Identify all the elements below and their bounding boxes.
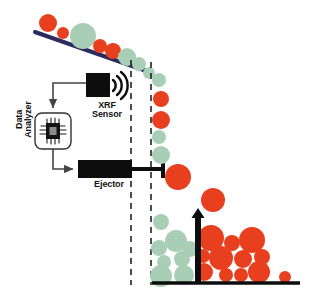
signal-waves-icon (113, 72, 128, 99)
ore-particle-reject (153, 91, 169, 107)
ore-particle-reject (201, 188, 225, 212)
pile-accept (150, 230, 198, 287)
diagram-canvas (0, 0, 312, 292)
particles-falling (152, 73, 225, 230)
ore-particle-reject (209, 246, 233, 270)
connector-analyzer-to-ejector (53, 149, 73, 169)
ejector-box[interactable] (78, 160, 132, 178)
ore-particle-accept (152, 73, 166, 87)
ore-particle-accept (152, 146, 170, 164)
ore-particle-reject (248, 261, 270, 283)
ore-particle-accept (152, 130, 166, 144)
particles-on-belt (39, 14, 155, 79)
ore-particle-reject (93, 39, 107, 53)
ore-particle-accept (70, 23, 96, 49)
ejector-label: Ejector (78, 180, 140, 189)
ore-particle-reject (234, 268, 248, 282)
ore-particle-reject (165, 164, 191, 190)
ore-particle-reject (279, 271, 291, 283)
xrf-sensor-box[interactable] (86, 73, 110, 97)
ore-particle-accept (174, 251, 190, 267)
ore-particle-reject (57, 27, 69, 39)
data-analyzer-label: Data Analyzer (15, 91, 34, 147)
ore-particle-accept (153, 214, 169, 230)
ore-particle-accept (151, 240, 167, 256)
pile-reject (195, 225, 291, 283)
xrf-sensor-label: XRF Sensor (78, 101, 136, 120)
xrf-sorting-diagram: XRF Sensor Ejector Data Analyzer (0, 0, 312, 292)
ore-particle-reject (39, 14, 57, 32)
ore-particle-accept (132, 57, 146, 71)
ore-particle-reject (234, 250, 252, 268)
ore-particle-reject (152, 111, 170, 129)
ore-particle-reject (219, 268, 233, 282)
